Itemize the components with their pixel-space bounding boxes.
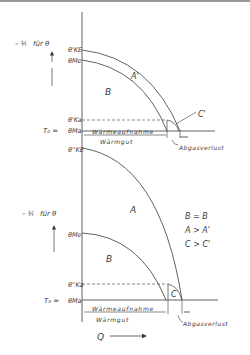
- lower-y-label-fraction: – ¹⁄ₜ: [22, 210, 34, 218]
- tick-theta-ka-dprime: θ''Ka: [68, 281, 84, 289]
- upper-loss-label: Abgasverlust: [178, 144, 224, 152]
- relation-1: B = B: [185, 212, 208, 221]
- upper-bracket-top-label: Wärmeaufnahme: [92, 128, 154, 135]
- upper-diagram: – ¹⁄ₜ für θ θ'KE θMe θ'Ka θMa T₀ = B A' …: [15, 40, 224, 152]
- upper-inner-curve: [82, 60, 167, 131]
- tick-theta-ke-dprime: θ''KE: [68, 146, 85, 154]
- lower-y-label-text: für θ: [40, 210, 57, 218]
- upper-c-leader: [176, 112, 196, 124]
- tick-theta-me-upper: θMe: [68, 57, 82, 65]
- tick-theta-ma-lower: θMa: [68, 297, 82, 305]
- lower-bracket-top-label: Wärmeaufnahme: [92, 305, 154, 312]
- lower-region-b: B: [106, 254, 112, 264]
- lower-inner-curve: [82, 233, 166, 300]
- lower-loss-label: Abgasverlust: [182, 320, 228, 328]
- upper-bracket-bottom-label: Wärmgut: [100, 138, 133, 146]
- relation-3: C > C': [185, 240, 210, 249]
- lower-bracket-bottom-label: Wärmgut: [96, 316, 129, 324]
- upper-region-a-prime: A': [130, 72, 139, 81]
- relation-2: A > A': [184, 226, 210, 235]
- upper-outer-curve: [82, 50, 180, 131]
- upper-y-label-text: für θ: [33, 40, 50, 48]
- upper-region-c-prime: C': [198, 110, 206, 119]
- lower-diagram: – ¹⁄ₜ für θ θ''KE θMe θ''Ka θMa T₀ = A B…: [22, 146, 228, 342]
- upper-c-arc: [167, 120, 179, 131]
- upper-region-b: B: [105, 87, 111, 97]
- x-axis-label: Q: [97, 332, 104, 342]
- tick-theta-ke-prime: θ'KE: [68, 46, 83, 54]
- t0-label-lower: T₀ =: [44, 297, 59, 305]
- tick-theta-ka-prime: θ'Ka: [68, 116, 82, 124]
- lower-outer-curve: [82, 148, 182, 300]
- t0-label-upper: T₀ =: [43, 127, 58, 135]
- lower-region-c: C: [171, 290, 177, 299]
- tick-theta-ma-upper: θMa: [68, 127, 82, 135]
- lower-region-a: A: [129, 205, 136, 215]
- diagram-canvas: – ¹⁄ₜ für θ θ'KE θMe θ'Ka θMa T₀ = B A' …: [0, 0, 250, 355]
- tick-theta-me-lower: θMe: [68, 231, 82, 239]
- upper-y-label-fraction: – ¹⁄ₜ: [15, 40, 27, 48]
